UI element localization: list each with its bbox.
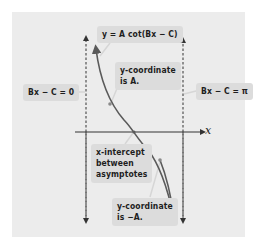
left-asymptote-label: Bx − C = 0: [23, 84, 79, 101]
point-x-intercept: [133, 131, 136, 134]
y-coordinate-neg-a-line2: is −A.: [117, 212, 173, 223]
y-coordinate-neg-a-line1: y-coordinate: [117, 201, 173, 212]
point-y-equals-neg-a: [158, 158, 162, 162]
y-coordinate-a-label: y-coordinate is A.: [115, 62, 181, 90]
x-intercept-label: x-intercept between asymptotes: [91, 144, 152, 183]
x-intercept-line3: asymptotes: [96, 169, 147, 180]
equation-label: y = A cot(Bx − C): [97, 26, 183, 43]
point-y-equals-a: [108, 102, 112, 106]
x-intercept-line2: between: [96, 158, 147, 169]
y-coordinate-neg-a-label: y-coordinate is −A.: [112, 198, 178, 226]
x-intercept-line1: x-intercept: [96, 147, 147, 158]
x-axis-label: x: [205, 124, 211, 137]
leader-x-intercept: [125, 133, 133, 144]
y-coordinate-a-line1: y-coordinate: [120, 65, 176, 76]
y-coordinate-a-line2: is A.: [120, 76, 176, 87]
leader-right-asymptote: [184, 91, 196, 94]
right-asymptote-label: Bx − C = π: [196, 83, 253, 100]
leader-equation: [100, 43, 110, 56]
